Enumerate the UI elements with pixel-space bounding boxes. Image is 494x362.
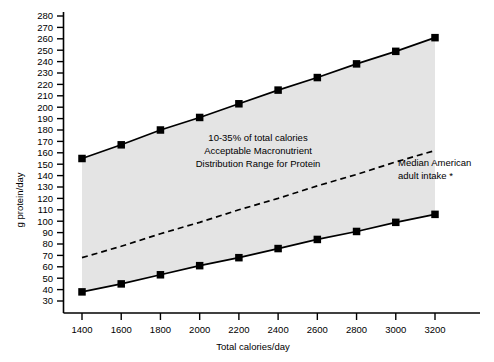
y-tick-label: 230 xyxy=(37,67,53,78)
x-axis-title: Total calories/day xyxy=(216,341,290,352)
y-tick-label: 260 xyxy=(37,33,53,44)
data-point-marker xyxy=(235,254,243,262)
x-tick-label: 3200 xyxy=(424,324,445,335)
data-point-marker xyxy=(353,228,361,236)
y-tick-label: 120 xyxy=(37,193,53,204)
y-tick-label: 200 xyxy=(37,102,53,113)
amdr-annotation: 10-35% of total calories Acceptable Macr… xyxy=(196,132,321,169)
y-tick-label: 50 xyxy=(42,273,53,284)
x-tick-label: 2600 xyxy=(307,324,328,335)
data-point-marker xyxy=(196,262,204,270)
data-point-marker xyxy=(353,60,361,68)
y-tick-label: 220 xyxy=(37,79,53,90)
x-tick-label: 2400 xyxy=(268,324,289,335)
y-tick-label: 240 xyxy=(37,56,53,67)
x-tick-label: 1800 xyxy=(150,324,171,335)
y-tick-label: 60 xyxy=(42,261,53,272)
x-tick-label: 2000 xyxy=(189,324,210,335)
y-tick-label: 160 xyxy=(37,147,53,158)
y-tick-label: 130 xyxy=(37,181,53,192)
x-tick-label: 2200 xyxy=(228,324,249,335)
data-point-marker xyxy=(274,245,282,253)
x-tick-label: 2800 xyxy=(346,324,367,335)
data-point-marker xyxy=(431,211,439,219)
y-tick-label: 90 xyxy=(42,227,53,238)
x-tick-label: 1400 xyxy=(71,324,92,335)
y-tick-label: 170 xyxy=(37,136,53,147)
protein-intake-chart: 2802702602502402302202102001901801701601… xyxy=(0,0,494,362)
y-tick-label: 280 xyxy=(37,10,53,21)
median-annotation-line-2: adult intake * xyxy=(398,170,453,181)
chart-canvas: 2802702602502402302202102001901801701601… xyxy=(0,0,494,362)
data-point-marker xyxy=(235,100,243,108)
data-point-marker xyxy=(314,236,322,244)
data-point-marker xyxy=(78,288,86,296)
y-tick-label: 110 xyxy=(38,204,53,215)
data-point-marker xyxy=(157,271,165,279)
y-tick-label: 180 xyxy=(37,124,53,135)
y-tick-label: 80 xyxy=(42,238,53,249)
median-annotation-line-1: Median American xyxy=(398,157,471,168)
data-point-marker xyxy=(392,219,400,227)
y-tick-label: 150 xyxy=(37,159,53,170)
y-axis-title: g protein/day xyxy=(14,172,25,227)
amdr-annotation-line-2: Acceptable Macronutrient xyxy=(204,145,312,156)
data-point-marker xyxy=(117,141,125,149)
data-point-marker xyxy=(117,280,125,288)
data-point-marker xyxy=(392,48,400,56)
data-point-marker xyxy=(196,114,204,122)
amdr-annotation-line-3: Distribution Range for Protein xyxy=(196,158,321,169)
y-tick-label: 250 xyxy=(37,45,53,56)
x-tick-label: 3000 xyxy=(385,324,406,335)
y-tick-label: 100 xyxy=(37,216,53,227)
x-tick-label: 1600 xyxy=(111,324,132,335)
y-tick-label: 210 xyxy=(37,90,53,101)
data-point-marker xyxy=(314,74,322,82)
y-tick-label: 30 xyxy=(42,295,53,306)
y-tick-label: 270 xyxy=(37,22,53,33)
data-point-marker xyxy=(157,126,165,134)
amdr-annotation-line-1: 10-35% of total calories xyxy=(208,132,308,143)
y-tick-label: 40 xyxy=(42,284,53,295)
data-point-marker xyxy=(431,34,439,42)
data-point-marker xyxy=(78,155,86,163)
y-tick-label: 190 xyxy=(37,113,53,124)
y-tick-label: 140 xyxy=(37,170,53,181)
data-point-marker xyxy=(274,86,282,94)
y-tick-label: 70 xyxy=(42,250,53,261)
